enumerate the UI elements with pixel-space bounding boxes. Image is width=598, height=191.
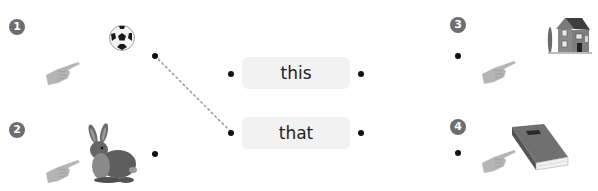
dashed-connector-1-to-that (158, 59, 233, 134)
pointing-hand-icon-1 (44, 59, 82, 87)
match-dot-item-4[interactable] (455, 150, 461, 156)
word-box-that: that (242, 117, 350, 149)
book-icon (510, 123, 570, 173)
number-badge-1: 1 (9, 19, 25, 35)
rabbit-icon (82, 122, 138, 184)
pointing-hand-icon-2 (44, 157, 82, 185)
match-dot-that-right[interactable] (358, 130, 364, 136)
match-dot-that-left[interactable] (228, 130, 234, 136)
word-box-this: this (242, 57, 350, 89)
number-badge-3: 3 (450, 17, 466, 33)
match-dot-item-1[interactable] (152, 53, 158, 59)
match-dot-item-3[interactable] (455, 53, 461, 59)
match-dot-item-2[interactable] (152, 151, 158, 157)
match-dot-this-left[interactable] (228, 71, 234, 77)
house-icon (546, 16, 592, 56)
match-dot-this-right[interactable] (358, 71, 364, 77)
number-badge-2: 2 (9, 122, 25, 138)
pointing-hand-icon-3 (480, 58, 518, 86)
matching-exercise: 1 2 (0, 0, 598, 191)
number-badge-4: 4 (450, 119, 466, 135)
soccer-ball-icon (108, 24, 136, 52)
